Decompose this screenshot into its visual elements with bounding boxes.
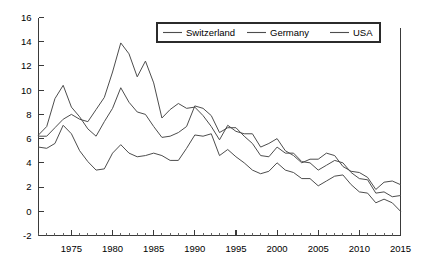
y-tick-label: 10 <box>21 85 32 96</box>
x-tick-label: 2000 <box>267 243 288 254</box>
y-axis-ticks <box>39 18 44 236</box>
y-tick-label: -2 <box>23 230 31 241</box>
x-axis-tick-labels: 197519801985199019952000200520102015 <box>61 243 411 254</box>
y-tick-label: 6 <box>26 133 31 144</box>
legend-label-usa: USA <box>353 27 373 38</box>
y-tick-label: 4 <box>26 157 31 168</box>
chart-series <box>39 43 401 211</box>
x-tick-label: 1995 <box>225 243 246 254</box>
x-tick-label: 2005 <box>308 243 329 254</box>
chart-canvas: 197519801985199019952000200520102015 161… <box>0 0 422 273</box>
y-tick-label: 14 <box>21 36 32 47</box>
legend-label-germany: Germany <box>270 27 309 38</box>
y-tick-label: 16 <box>21 12 32 23</box>
series-line-germany <box>39 85 401 196</box>
y-tick-label: 2 <box>26 181 31 192</box>
x-tick-label: 1975 <box>61 243 82 254</box>
y-tick-label: 0 <box>26 206 31 217</box>
x-tick-label: 2015 <box>390 243 411 254</box>
chart-legend: SwitzerlandGermanyUSA <box>157 23 380 42</box>
x-axis-ticks <box>39 230 401 236</box>
legend-label-switzerland: Switzerland <box>186 27 235 38</box>
x-tick-label: 1990 <box>184 243 205 254</box>
series-line-usa <box>39 43 401 190</box>
y-tick-label: 8 <box>26 109 31 120</box>
y-axis-tick-labels: 1614121086420-2 <box>21 12 32 241</box>
y-tick-label: 12 <box>21 60 32 71</box>
x-tick-label: 1985 <box>143 243 164 254</box>
axis-spine <box>39 18 401 236</box>
line-chart: 197519801985199019952000200520102015 161… <box>0 0 422 273</box>
chart-axes <box>39 18 401 236</box>
x-tick-label: 1980 <box>102 243 123 254</box>
x-tick-label: 2010 <box>349 243 370 254</box>
